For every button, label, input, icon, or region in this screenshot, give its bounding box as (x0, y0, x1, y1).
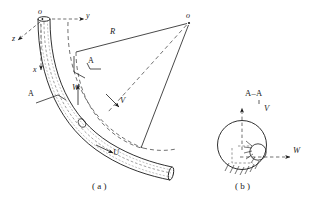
section-label-a-upper: A (88, 57, 94, 65)
origin-point (42, 18, 44, 20)
panel-b-v-label: V (264, 104, 269, 113)
y-axis-label: y (86, 12, 90, 20)
v-vector-label: V (120, 96, 125, 105)
tube-hidden-wall (41, 20, 171, 177)
cross-section-circle (218, 121, 267, 170)
particle-circle (250, 144, 266, 160)
z-axis-line (18, 22, 40, 40)
radius-line-lower (141, 25, 189, 148)
v-vector-arrow (106, 94, 119, 107)
panel-b (218, 100, 291, 175)
tube-inner-edge (50, 19, 172, 167)
radius-label-R: R (110, 27, 115, 36)
inner-reference-arc (76, 52, 141, 148)
section-label-a-lower: A (28, 90, 34, 98)
origin-label-o: o (38, 8, 42, 16)
tube-top-opening (38, 17, 50, 22)
tube-outer-edge (38, 19, 170, 180)
panel-b-w-label: W (293, 146, 300, 155)
outer-reference-arc-tail (143, 148, 176, 150)
curvature-center-point (188, 22, 190, 24)
panel-a (18, 17, 190, 181)
w-vector-label: W (72, 83, 79, 92)
z-axis-label: z (12, 35, 15, 43)
reference-arcs (68, 22, 176, 150)
curvature-center-label-o: o (186, 12, 190, 20)
x-axis-label: x (33, 66, 37, 74)
panel-a-caption: ( a ) (92, 182, 107, 191)
outer-reference-arc (68, 22, 143, 148)
radius-construction (76, 22, 190, 148)
section-title-a-a: A–A (245, 89, 262, 98)
panel-b-caption: ( b ) (235, 182, 250, 191)
hatching (225, 161, 259, 175)
tube-end-opening (167, 167, 174, 181)
u-vector-label: U (113, 148, 119, 157)
curved-tube (38, 17, 175, 181)
section-upper-bracket (74, 56, 85, 78)
radius-line-R (76, 24, 187, 53)
